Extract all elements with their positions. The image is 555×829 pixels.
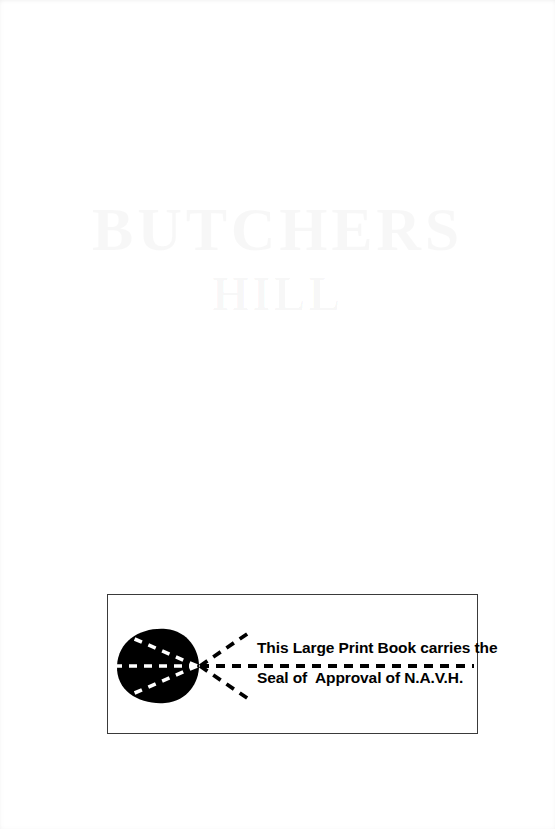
seal-caption-line-2: Seal of Approval of N.A.V.H. [257,669,463,686]
navh-seal-graphic [108,595,479,735]
page-canvas: BUTCHERS HILL This Large Print Book carr… [0,0,555,829]
navh-seal-box: This Large Print Book carries the Seal o… [107,594,478,734]
ghost-showthrough-line-1: BUTCHERS [0,196,555,262]
ghost-showthrough-line-2: HILL [0,268,555,320]
seal-caption-line-1: This Large Print Book carries the [257,639,497,656]
